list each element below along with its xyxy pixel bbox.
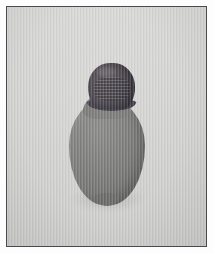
bottle-object bbox=[7, 7, 206, 246]
cap-highlight bbox=[97, 67, 116, 77]
cap-ridge-texture bbox=[94, 77, 130, 101]
photo-field bbox=[7, 7, 206, 246]
photo-frame-border bbox=[6, 6, 207, 247]
bottle-cap bbox=[88, 63, 135, 109]
photo-plate bbox=[0, 0, 214, 253]
